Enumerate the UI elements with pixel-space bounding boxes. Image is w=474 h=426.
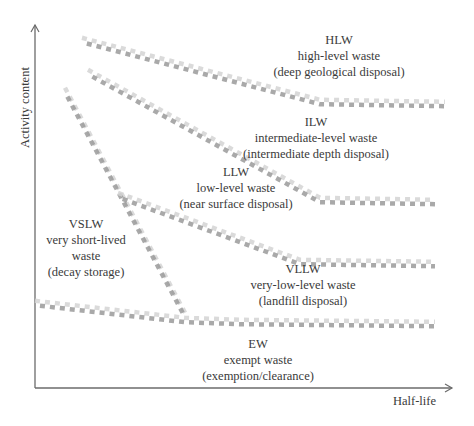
ew-name: exempt waste (202, 352, 314, 368)
y-axis-label: Activity content (18, 67, 33, 148)
hlw-name: high-level waste (273, 48, 404, 64)
hlw-abbr: HLW (273, 32, 404, 48)
region-label-ilw: ILW intermediate-level waste (intermedia… (243, 114, 389, 162)
boundary-vllw-ew (35, 301, 435, 326)
ew-abbr: EW (202, 336, 314, 352)
vslw-abbr: VSLW (46, 216, 126, 232)
llw-disposal: (near surface disposal) (179, 196, 292, 212)
vllw-disposal: (landfill disposal) (250, 293, 355, 309)
region-label-llw: LLW low-level waste (near surface dispos… (179, 164, 292, 212)
llw-name: low-level waste (179, 180, 292, 196)
llw-abbr: LLW (179, 164, 292, 180)
vslw-name-line1: very short-lived (46, 232, 126, 248)
ilw-abbr: ILW (243, 114, 389, 130)
region-label-ew: EW exempt waste (exemption/clearance) (202, 336, 314, 384)
region-label-vllw: VLLW very-low-level waste (landfill disp… (250, 261, 355, 309)
region-label-vslw: VSLW very short-lived waste (decay stora… (46, 216, 126, 280)
vllw-abbr: VLLW (250, 261, 355, 277)
region-label-hlw: HLW high-level waste (deep geological di… (273, 32, 404, 80)
hlw-disposal: (deep geological disposal) (273, 64, 404, 80)
vslw-name-line2: waste (46, 248, 126, 264)
ilw-name: intermediate-level waste (243, 130, 389, 146)
x-axis-label: Half-life (393, 394, 436, 409)
ilw-disposal: (intermediate depth disposal) (243, 146, 389, 162)
ew-disposal: (exemption/clearance) (202, 368, 314, 384)
boundary-vslw (65, 88, 185, 317)
vllw-name: very-low-level waste (250, 277, 355, 293)
vslw-disposal: (decay storage) (46, 264, 126, 280)
